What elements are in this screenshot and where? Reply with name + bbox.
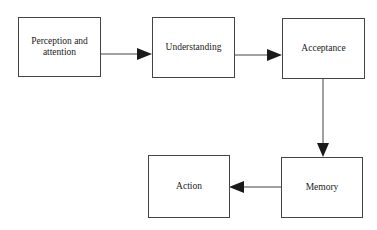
arrowhead-down-icon: [317, 143, 329, 157]
node-acceptance: Acceptance: [282, 18, 365, 79]
node-label: Understanding: [166, 42, 222, 53]
node-label: Acceptance: [301, 43, 345, 54]
node-label-line2: attention: [31, 47, 88, 58]
node-understanding: Understanding: [152, 17, 235, 78]
node-memory: Memory: [281, 157, 363, 218]
node-label: Action: [176, 181, 202, 192]
node-label: Memory: [306, 182, 339, 193]
arrowhead-right-icon: [137, 48, 152, 60]
arrowhead-right-icon: [267, 49, 282, 61]
node-label-line1: Perception and: [31, 36, 88, 47]
arrowhead-left-icon: [229, 181, 244, 193]
node-action: Action: [148, 155, 230, 218]
node-perception: Perception and attention: [18, 17, 101, 77]
